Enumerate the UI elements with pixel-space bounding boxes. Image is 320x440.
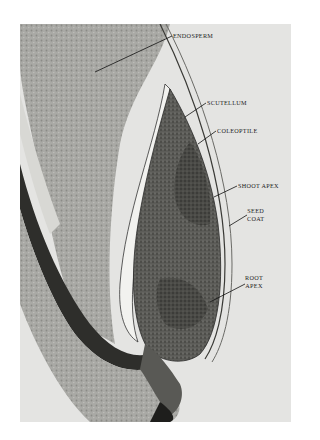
tissue-section-illustration <box>20 24 291 422</box>
label-scutellum: SCUTELLUM <box>207 99 247 107</box>
micrograph-photo <box>20 24 291 422</box>
label-seed-coat: SEED COAT <box>247 207 264 222</box>
label-seed-coat-line2: COAT <box>247 215 264 223</box>
label-seed-coat-line1: SEED <box>247 207 264 215</box>
label-root-apex: ROOT APEX <box>245 274 263 289</box>
label-coleoptile: COLEOPTILE <box>217 127 257 135</box>
label-shoot-apex: SHOOT APEX <box>238 182 279 190</box>
label-root-apex-line1: ROOT <box>245 274 263 282</box>
label-root-apex-line2: APEX <box>245 282 263 290</box>
label-endosperm: ENDOSPERM <box>173 32 213 40</box>
